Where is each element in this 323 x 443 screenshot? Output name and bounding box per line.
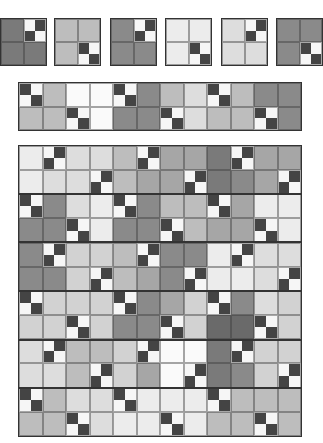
patch-square <box>232 351 243 362</box>
four-patch <box>90 363 114 387</box>
patch-square <box>114 292 125 303</box>
fabric-rectangle <box>43 83 67 107</box>
fabric-rectangle <box>137 412 161 436</box>
fabric-rectangle <box>113 107 137 131</box>
fabric-rectangle <box>90 388 114 412</box>
fabric-rectangle <box>254 339 278 363</box>
patch-square <box>20 206 31 217</box>
patch-square <box>148 158 159 169</box>
patch-square <box>20 292 31 303</box>
patch-square <box>208 400 219 411</box>
fabric-rectangle <box>207 412 231 436</box>
fabric-rectangle <box>254 388 278 412</box>
four-patch <box>113 194 137 218</box>
fabric-rectangle <box>278 412 302 436</box>
patch-square <box>35 31 45 42</box>
fabric-rectangle <box>19 363 43 387</box>
four-patch <box>160 218 184 242</box>
patch-square <box>185 279 196 290</box>
patch-square <box>242 351 253 362</box>
patch-square <box>190 54 200 65</box>
patch-square <box>255 108 266 119</box>
fabric-rectangle <box>66 339 90 363</box>
patch-square <box>172 316 183 327</box>
fabric-rectangle <box>19 267 43 291</box>
patch-square <box>289 376 300 387</box>
four-patch <box>134 19 157 42</box>
patch-square <box>172 231 183 242</box>
fabric-rectangle <box>19 107 43 131</box>
fabric-rectangle <box>254 267 278 291</box>
patch-square <box>208 84 219 95</box>
patch-square <box>190 43 200 54</box>
patch-square <box>54 255 65 266</box>
quilt-block <box>54 18 101 66</box>
patch-square <box>289 279 300 290</box>
patch-square <box>91 171 102 182</box>
fabric-rectangle <box>300 19 323 42</box>
fabric-rectangle <box>160 146 184 170</box>
patch-square <box>20 95 31 106</box>
fabric-rectangle <box>43 170 67 194</box>
fabric-rectangle <box>207 170 231 194</box>
fabric-rectangle <box>278 146 302 170</box>
fabric-rectangle <box>137 315 161 339</box>
fabric-rectangle <box>184 194 208 218</box>
fabric-rectangle <box>111 19 134 42</box>
fabric-rectangle <box>160 388 184 412</box>
patch-square <box>279 279 290 290</box>
patch-square <box>44 147 55 158</box>
patch-square <box>242 147 253 158</box>
fabric-rectangle <box>277 19 300 42</box>
patch-square <box>78 118 89 129</box>
four-patch <box>43 339 67 363</box>
fabric-rectangle <box>55 42 78 65</box>
patch-square <box>161 327 172 338</box>
patch-square <box>78 316 89 327</box>
fabric-rectangle <box>113 218 137 242</box>
patch-square <box>232 244 243 255</box>
fabric-rectangle <box>90 107 114 131</box>
patch-square <box>161 424 172 435</box>
patch-square <box>44 340 55 351</box>
patch-square <box>25 31 35 42</box>
four-patch <box>254 412 278 436</box>
patch-square <box>172 413 183 424</box>
fabric-rectangle <box>43 388 67 412</box>
patch-square <box>78 108 89 119</box>
fabric-rectangle <box>254 146 278 170</box>
patch-square <box>138 147 149 158</box>
fabric-rectangle <box>137 107 161 131</box>
fabric-rectangle <box>278 388 302 412</box>
patch-square <box>195 364 206 375</box>
fabric-rectangle <box>66 267 90 291</box>
fabric-rectangle <box>90 146 114 170</box>
patch-square <box>44 351 55 362</box>
four-patch <box>113 291 137 315</box>
four-patch <box>207 291 231 315</box>
patch-square <box>289 268 300 279</box>
fabric-rectangle <box>90 291 114 315</box>
fabric-rectangle <box>166 19 189 42</box>
patch-square <box>125 84 136 95</box>
patch-square <box>89 54 99 65</box>
fabric-rectangle <box>66 194 90 218</box>
patch-square <box>172 327 183 338</box>
patch-square <box>135 31 145 42</box>
patch-square <box>246 31 256 42</box>
fabric-rectangle <box>113 412 137 436</box>
fabric-rectangle <box>113 267 137 291</box>
fabric-rectangle <box>137 291 161 315</box>
fabric-rectangle <box>184 339 208 363</box>
patch-square <box>195 268 206 279</box>
patch-square <box>279 364 290 375</box>
patch-square <box>219 95 230 106</box>
four-patch <box>43 146 67 170</box>
four-patch <box>137 339 161 363</box>
fabric-rectangle <box>231 83 255 107</box>
four-patch <box>90 267 114 291</box>
patch-square <box>161 316 172 327</box>
fabric-rectangle <box>90 83 114 107</box>
patch-square <box>266 424 277 435</box>
patch-square <box>289 171 300 182</box>
